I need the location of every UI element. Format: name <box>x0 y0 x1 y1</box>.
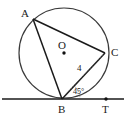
point-label-o: O <box>58 40 66 51</box>
point-label-a: A <box>21 8 29 19</box>
point-label-b: B <box>58 104 65 115</box>
angle-label-45: 45° <box>73 88 84 96</box>
point-label-c: C <box>111 47 118 58</box>
point-label-t: T <box>102 104 109 115</box>
length-label-4: 4 <box>77 64 82 73</box>
point-t-dot <box>104 97 107 100</box>
center-point-dot <box>62 51 65 54</box>
geometry-figure: A O C B T 4 45° <box>0 0 126 123</box>
